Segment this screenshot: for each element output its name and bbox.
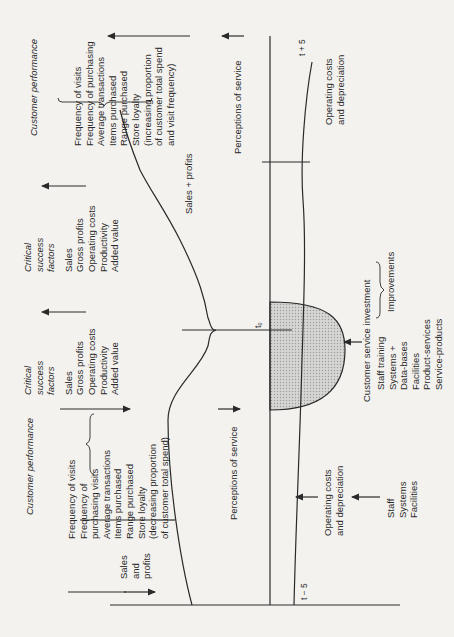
improvements-label: Improvements (385, 252, 397, 312)
left-customer-performance-list: Frequency of visits Frequency of purchas… (66, 437, 170, 539)
t-plus-5-label: t + 5 (297, 39, 309, 56)
operating-costs-left: Operating costs and depreciation (322, 466, 345, 536)
perceptions-of-service-right: Perceptions of service (232, 61, 244, 154)
sales-profits-label: Sales + profits (183, 154, 195, 214)
staff-systems-facilities: Staff Systems Facilities (385, 481, 420, 518)
left-critical-success-factors: Critical success factors Sales Gross pro… (22, 328, 121, 395)
right-critical-success-factors: Critical success factors Sales Gross pro… (22, 205, 121, 272)
operating-costs-right: Operating costs and depreciation (323, 55, 346, 125)
perceptions-of-service-left: Perceptions of service (228, 427, 240, 520)
right-customer-performance-heading: Customer performance (28, 39, 40, 136)
brace-improvements (376, 262, 384, 318)
t0-label: t₀ (253, 322, 265, 328)
customer-service-investment-label: Customer service investment (361, 280, 373, 402)
left-customer-performance-heading: Customer performance (24, 418, 36, 515)
improvements-list: Staff training Systems + Data-bases Faci… (375, 319, 445, 390)
left-sales-and-profits-label: Sales and profits (118, 553, 153, 579)
right-customer-performance-list: Frequency of visits Frequency of purchas… (72, 41, 176, 146)
t-minus-5-label: t − 5 (299, 583, 311, 600)
investment-area (270, 302, 345, 410)
